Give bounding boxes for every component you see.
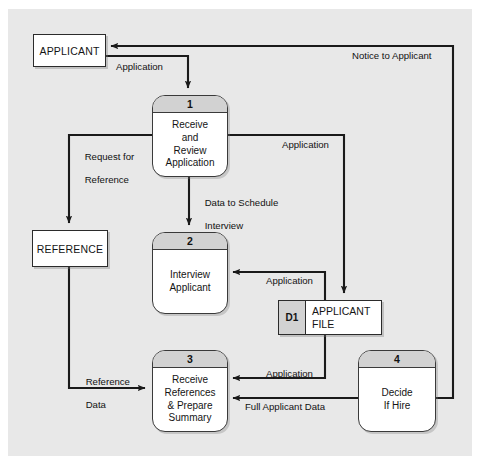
diagram-page: APPLICANT REFERENCE 1 ReceiveandReviewAp… (0, 0, 481, 466)
entity-applicant-label: APPLICANT (39, 45, 99, 57)
flow-label-reference-data-line1: Reference (86, 376, 130, 387)
flow-label-data-to-schedule-interview-line1: Data to Schedule (205, 197, 279, 208)
process-2-label: InterviewApplicant (153, 250, 227, 313)
flow-label-notice-to-applicant: Notice to Applicant (352, 50, 431, 62)
flow-label-reference-data: Reference Data (75, 364, 130, 422)
process-4-label: DecideIf Hire (359, 368, 435, 431)
process-1[interactable]: 1 ReceiveandReviewApplication (152, 95, 228, 177)
datastore-d1-name-line2: FILE (312, 318, 334, 330)
process-2[interactable]: 2 InterviewApplicant (152, 232, 228, 314)
entity-reference[interactable]: REFERENCE (32, 230, 108, 267)
datastore-d1-name: APPLICANT FILE (306, 301, 381, 334)
flow-label-application-to-p3: Application (266, 368, 313, 380)
entity-applicant[interactable]: APPLICANT (33, 34, 106, 67)
process-1-text: ReceiveandReviewApplication (166, 119, 215, 169)
process-3-number: 3 (153, 351, 227, 368)
flow-label-request-for-reference: Request for Reference (74, 139, 134, 197)
flow-label-application-to-store: Application (282, 139, 329, 151)
process-2-text: InterviewApplicant (169, 269, 210, 294)
process-1-number: 1 (153, 96, 227, 113)
entity-reference-label: REFERENCE (37, 243, 104, 255)
flow-label-full-applicant-data: Full Applicant Data (245, 401, 325, 413)
process-4[interactable]: 4 DecideIf Hire (358, 350, 436, 432)
flow-label-application-in: Application (116, 61, 163, 73)
process-3-label: ReceiveReferences& PrepareSummary (153, 368, 227, 431)
flow-label-data-to-schedule-interview: Data to Schedule Interview (194, 185, 278, 243)
flow-label-reference-data-line2: Data (86, 399, 106, 410)
datastore-d1-name-line1: APPLICANT (312, 305, 370, 317)
flow-label-data-to-schedule-interview-line2: Interview (205, 220, 243, 231)
datastore-d1[interactable]: D1 APPLICANT FILE (278, 300, 382, 335)
process-1-label: ReceiveandReviewApplication (153, 113, 227, 176)
process-3[interactable]: 3 ReceiveReferences& PrepareSummary (152, 350, 228, 432)
process-3-text: ReceiveReferences& PrepareSummary (164, 374, 215, 424)
flow-label-application-to-p2: Application (266, 275, 313, 287)
datastore-d1-code: D1 (279, 301, 306, 334)
flow-label-request-for-reference-line1: Request for (85, 151, 135, 162)
flow-label-request-for-reference-line2: Reference (85, 174, 129, 185)
process-4-text: DecideIf Hire (381, 387, 412, 412)
process-4-number: 4 (359, 351, 435, 368)
